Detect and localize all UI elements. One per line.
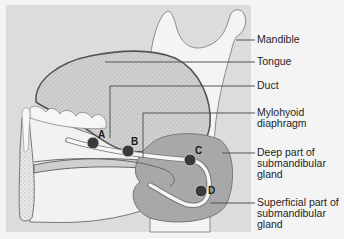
label-deep-part: Deep part of submandibular gland <box>257 147 326 180</box>
svg-text:C: C <box>195 145 202 156</box>
label-mylohyoid-diaphragm: Mylohyoid diaphragm <box>257 107 307 129</box>
label-duct: Duct <box>257 80 279 91</box>
submandibular-gland <box>133 134 232 222</box>
svg-text:B: B <box>131 136 138 147</box>
label-mandible: Mandible <box>257 34 300 45</box>
point-d: D <box>195 185 215 197</box>
label-tongue: Tongue <box>257 56 291 67</box>
label-superficial-part: Superficial part of submandibular gland <box>257 197 339 230</box>
svg-text:A: A <box>98 129 105 140</box>
svg-text:D: D <box>208 185 215 196</box>
